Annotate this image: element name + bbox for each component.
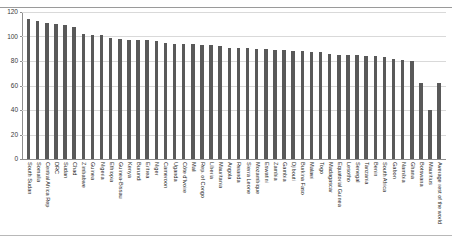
bar (82, 34, 85, 159)
x-tick-label: DRC (53, 162, 59, 174)
bar-slot (307, 12, 316, 159)
top-divider-rule (0, 7, 452, 8)
x-label-slot: Average rest of the world (435, 161, 444, 238)
bar-slot (124, 12, 133, 159)
bar-slot (416, 12, 425, 159)
x-tick-label: Tanzania (363, 162, 369, 184)
bar (127, 40, 130, 159)
x-label-slot: Liberia (207, 161, 216, 238)
bar (383, 57, 386, 159)
bar-slot (70, 12, 79, 159)
bar-slot (298, 12, 307, 159)
x-label-slot: Côte d'Ivoire (179, 161, 188, 238)
bar-slot (243, 12, 252, 159)
x-label-slot: Mozambique (252, 161, 261, 238)
bar-slot (106, 12, 115, 159)
bar-slot (188, 12, 197, 159)
gridline (22, 159, 446, 160)
x-label-slot: Angola (225, 161, 234, 238)
bar (155, 41, 158, 159)
y-axis-tick-labels: 020406080100120 (0, 12, 20, 160)
x-label-slot: Rwanda (234, 161, 243, 238)
bar-slot (280, 12, 289, 159)
bar (437, 83, 440, 159)
clipped-title-strip (0, 0, 452, 7)
x-label-slot: Nigeria (97, 161, 106, 238)
x-tick-label: Uganda (172, 162, 178, 182)
x-tick-label: Burundi (135, 162, 141, 181)
y-tick-label: 0 (14, 156, 18, 163)
x-tick-label: Burkina Faso (300, 162, 306, 195)
bar (36, 21, 39, 159)
bar-slot (325, 12, 334, 159)
x-label-slot: Kenya (124, 161, 133, 238)
x-tick-label: Eritrea (144, 162, 150, 178)
bar (136, 40, 139, 159)
bar (63, 25, 66, 159)
x-tick-label: Namibia (400, 162, 406, 183)
bar-slot (289, 12, 298, 159)
x-tick-label: Somalia (35, 162, 41, 182)
bar (182, 44, 185, 159)
bar-slot (207, 12, 216, 159)
x-tick-label: Guinea (90, 162, 96, 180)
bar-slot (197, 12, 206, 159)
bar (401, 60, 404, 159)
bar (301, 51, 304, 159)
bar (291, 51, 294, 159)
bar (209, 45, 212, 159)
x-label-slot: Gambia (280, 161, 289, 238)
bar-slot (170, 12, 179, 159)
y-tick-mark (20, 159, 22, 160)
bar (218, 46, 221, 159)
bar-slot (426, 12, 435, 159)
x-label-slot: Mauritius (426, 161, 435, 238)
bar-slot (79, 12, 88, 159)
bar-slot (88, 12, 97, 159)
bar-slot (216, 12, 225, 159)
bar (27, 19, 30, 159)
y-tick-label: 100 (7, 33, 18, 40)
bar-slot (252, 12, 261, 159)
x-label-slot: Zimbabwe (79, 161, 88, 238)
bar-slot (261, 12, 270, 159)
bar (273, 50, 276, 159)
x-label-slot: Cameroon (161, 161, 170, 238)
x-label-slot: Malawi (307, 161, 316, 238)
x-label-slot: Eritrea (143, 161, 152, 238)
y-tick-label: 40 (11, 107, 18, 114)
x-tick-label: Madagascar (327, 162, 333, 193)
x-tick-label: Gabon (391, 162, 397, 179)
x-tick-label: Botswana (418, 162, 424, 187)
y-tick-label: 60 (11, 82, 18, 89)
bar (45, 23, 48, 159)
bar (346, 55, 349, 159)
x-tick-label: Lesotho (345, 162, 351, 182)
x-label-slot: Sudan (61, 161, 70, 238)
x-tick-label: Mozambique (254, 162, 260, 194)
x-tick-label: Equatorial Guinea (336, 162, 342, 207)
bar (264, 49, 267, 159)
bar-slot (152, 12, 161, 159)
bar (164, 43, 167, 159)
x-label-slot: Rep. of Congo (197, 161, 206, 238)
bar (337, 55, 340, 159)
bar (310, 52, 313, 159)
bar-slot (270, 12, 279, 159)
bar (419, 83, 422, 159)
y-tick-label: 120 (7, 9, 18, 16)
x-tick-label: Benin (373, 162, 379, 176)
x-label-slot: Lesotho (343, 161, 352, 238)
x-label-slot: Eswatini (261, 161, 270, 238)
bar-slot (42, 12, 51, 159)
x-tick-label: Senegal (354, 162, 360, 183)
x-label-slot: Burkina Faso (298, 161, 307, 238)
bar-slot (161, 12, 170, 159)
bar (228, 48, 231, 159)
bar-slot (225, 12, 234, 159)
x-label-slot: DRC (51, 161, 60, 238)
x-tick-label: South Sudan (26, 162, 32, 194)
x-label-slot: Equatorial Guinea (334, 161, 343, 238)
bar (428, 110, 431, 159)
bar (255, 49, 258, 159)
